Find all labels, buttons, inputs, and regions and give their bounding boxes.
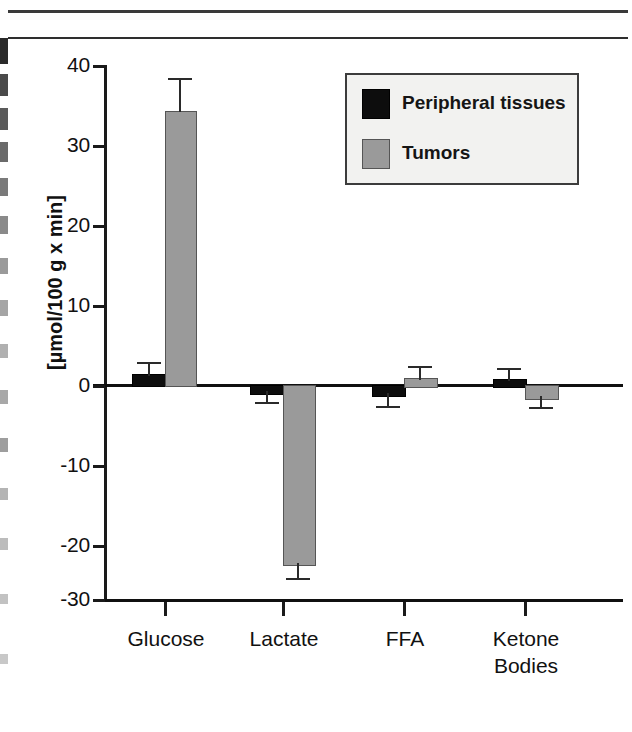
page-top-rule [8,10,628,13]
x-label-ketone-line1: Ketone [451,625,601,652]
bar-ketone-tumors [525,385,559,400]
y-tick-40 [93,65,105,68]
errorbar-glucose-tumors [179,78,181,112]
y-tick-0 [93,385,105,388]
errorbar-lactate-tumors [297,563,299,579]
errorcap-ketone-tumors [529,407,553,409]
bar-glucose-tumors [165,111,197,387]
errorcap-lactate-peripheral [255,402,279,404]
y-tick-20 [93,225,105,228]
y-tick-label-40: 40 [30,53,90,77]
errorcap-ffa-tumors [408,366,432,368]
x-axis-line [93,599,623,602]
y-tick-neg20 [93,545,105,548]
errorbar-glucose-peripheral [148,362,150,376]
x-tick-ketone-bodies [524,602,527,616]
y-tick-neg30 [93,599,105,602]
legend-label-tumors: Tumors [402,142,470,164]
legend-swatch-tumors [362,139,390,169]
bar-ffa-peripheral [372,385,406,397]
x-tick-glucose [164,602,167,616]
bar-ffa-tumors [404,378,438,388]
bar-ketone-peripheral [493,379,527,388]
errorcap-glucose-tumors [168,78,192,80]
y-axis-spine-lower [104,385,107,601]
y-tick-neg10 [93,465,105,468]
legend-swatch-peripheral-tissues [362,89,390,119]
y-axis-title: [µmol/100 g x min] [44,168,67,398]
y-tick-label-neg10: -10 [30,453,90,477]
errorcap-ketone-peripheral [497,368,521,370]
errorbar-ffa-peripheral [387,393,389,407]
y-tick-10 [93,305,105,308]
legend-label-peripheral-tissues: Peripheral tissues [402,92,566,114]
y-tick-30 [93,145,105,148]
errorcap-glucose-peripheral [137,362,161,364]
scanned-page: 40 30 20 10 0 -10 -20 -30 [µmol/100 g x … [0,0,632,732]
bar-chart: 40 30 20 10 0 -10 -20 -30 [µmol/100 g x … [0,39,632,719]
errorcap-ffa-peripheral [376,406,400,408]
x-label-ketone-line2: Bodies [451,652,601,679]
y-tick-label-30: 30 [30,133,90,157]
y-tick-label-neg20: -20 [30,533,90,557]
x-tick-lactate [282,602,285,616]
x-tick-ffa [403,602,406,616]
errorcap-lactate-tumors [286,578,310,580]
x-label-ketone-bodies: Ketone Bodies [451,625,601,679]
bar-lactate-tumors [283,385,316,566]
chart-legend: Peripheral tissues Tumors [345,73,579,185]
y-tick-label-neg30: -30 [30,587,90,611]
errorbar-ffa-tumors [419,366,421,380]
